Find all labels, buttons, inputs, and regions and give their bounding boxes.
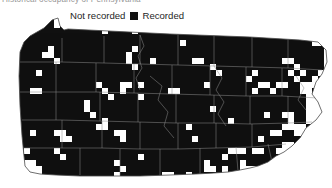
black-square-swatch-icon bbox=[130, 12, 138, 20]
legend-entry-recorded: Recorded bbox=[130, 9, 184, 23]
figure-root: Historical occupancy of Pennsylvania Not… bbox=[0, 0, 332, 188]
pennsylvania-map bbox=[0, 16, 332, 188]
map-svg bbox=[0, 16, 332, 188]
legend-label-recorded: Recorded bbox=[142, 9, 184, 23]
map-basemap bbox=[0, 16, 332, 188]
legend-entry-not-recorded: Not recorded bbox=[66, 9, 125, 23]
legend-label-not-recorded: Not recorded bbox=[70, 9, 125, 23]
figure-caption: Historical occupancy of Pennsylvania bbox=[2, 0, 242, 5]
map-legend: Not recorded Recorded bbox=[66, 9, 184, 23]
recorded-cells-layer bbox=[0, 16, 324, 184]
